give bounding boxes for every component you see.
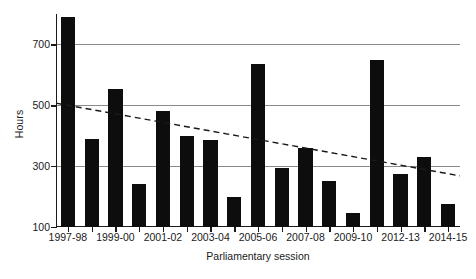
plot-area xyxy=(56,14,460,227)
x-axis-title: Parliamentary session xyxy=(56,250,460,262)
x-axis-tick-labels: 1997-981999-002001-022003-042005-062007-… xyxy=(56,231,460,247)
trend-line xyxy=(56,14,460,227)
y-axis-tick-label: 500 xyxy=(16,100,50,110)
y-axis-tick-label: 700 xyxy=(16,39,50,49)
x-axis-tick-label: 2014-15 xyxy=(413,231,476,243)
y-axis-tick xyxy=(51,227,57,228)
bar-chart: Hours 100300500700 1997-981999-002001-02… xyxy=(0,0,476,279)
y-axis-tick-label: 300 xyxy=(16,161,50,171)
